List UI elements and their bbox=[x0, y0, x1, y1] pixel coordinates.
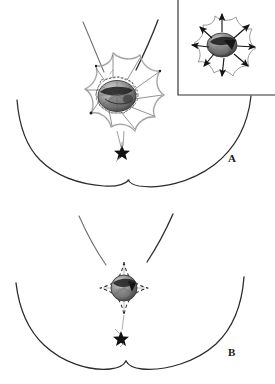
panel-b-nipple-areola bbox=[111, 275, 137, 301]
panel-b-star-marker bbox=[113, 329, 129, 347]
inset-nipple-areola bbox=[207, 33, 237, 57]
panel-b-inferior-tail bbox=[122, 315, 124, 330]
figure-svg bbox=[0, 0, 275, 384]
panel-a-inset bbox=[178, 0, 275, 95]
panel-a-star-marker bbox=[114, 142, 130, 162]
panel-b-cleavage-lines bbox=[79, 214, 173, 265]
panel-label-b: B bbox=[228, 346, 235, 358]
panel-b-left-breast-contour bbox=[16, 283, 126, 369]
panel-a-inferior-tail bbox=[117, 131, 124, 147]
panel-b-right-breast-contour bbox=[126, 277, 244, 369]
figure-container: A B bbox=[0, 0, 275, 384]
panel-label-a: A bbox=[228, 152, 236, 164]
panel-b bbox=[16, 214, 244, 369]
panel-a bbox=[17, 0, 275, 187]
panel-a-right-breast-contour bbox=[128, 96, 251, 187]
